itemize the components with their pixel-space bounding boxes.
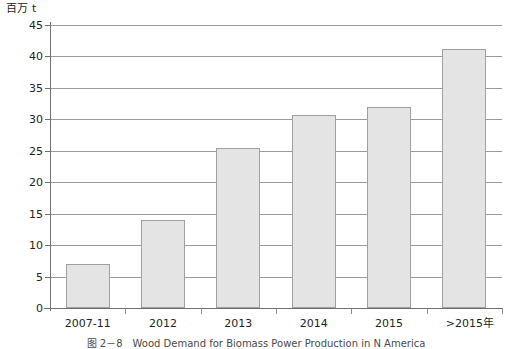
y-axis-tick-label: 5 [36, 271, 43, 282]
y-axis-unit-label: 百万 t [6, 2, 37, 15]
category-axis-line [44, 308, 486, 309]
bar [141, 220, 185, 308]
x-axis-tick-label: 2015 [375, 317, 403, 330]
x-axis-unit-label: 年 [483, 317, 494, 330]
y-axis-tick-label: 45 [29, 20, 43, 31]
x-axis-tick-label: 2012 [149, 317, 177, 330]
y-axis-tick-label: 25 [29, 145, 43, 156]
x-axis-tick [427, 308, 428, 314]
bar [66, 264, 110, 308]
x-axis-tick-label: 2007-11 [65, 317, 111, 330]
x-axis-tick [201, 308, 202, 314]
bar-chart-figure: 百万 t 051015202530354045 2007-11201220132… [0, 0, 512, 349]
x-axis-tick-label: >2015 [446, 317, 483, 330]
x-axis-tick [502, 308, 503, 314]
x-axis-tick [276, 308, 277, 314]
x-axis-tick-label: 2013 [224, 317, 252, 330]
y-axis-tick-label: 15 [29, 208, 43, 219]
bar [442, 49, 486, 308]
y-axis-tick-label: 35 [29, 82, 43, 93]
figure-caption-number: 图 2－8 [87, 338, 123, 349]
y-axis-tick-label: 40 [29, 51, 43, 62]
figure-caption-text: Wood Demand for Biomass Power Production… [133, 338, 426, 349]
plot-area: 051015202530354045 [50, 25, 502, 308]
bar [292, 115, 336, 308]
bars-group [50, 25, 502, 308]
x-axis-tick [125, 308, 126, 314]
bar [367, 107, 411, 308]
bar [216, 148, 260, 308]
y-axis-tick-label: 0 [36, 303, 43, 314]
y-axis-tick-label: 10 [29, 240, 43, 251]
y-axis-tick-label: 20 [29, 177, 43, 188]
y-axis-tick-label: 30 [29, 114, 43, 125]
figure-caption: 图 2－8Wood Demand for Biomass Power Produ… [0, 338, 512, 349]
x-axis-tick-label: 2014 [300, 317, 328, 330]
x-axis-tick [351, 308, 352, 314]
